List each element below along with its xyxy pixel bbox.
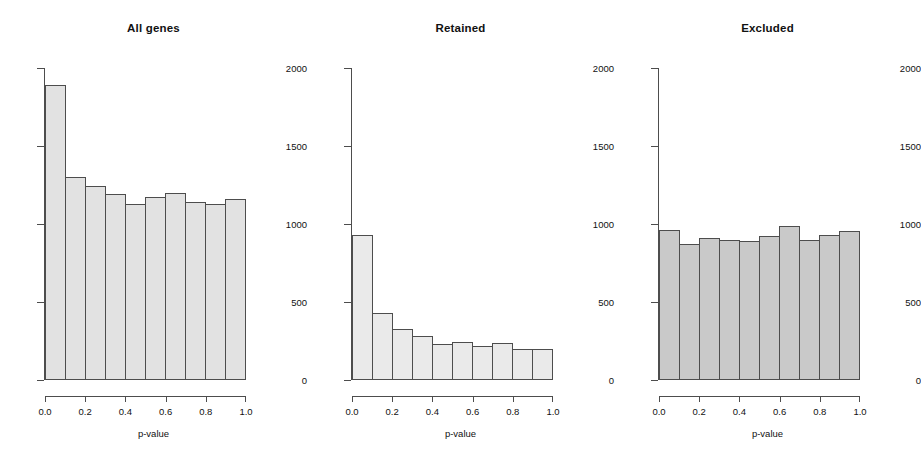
histogram-bar (145, 197, 166, 380)
histogram-bar (492, 343, 513, 380)
histogram-bar (659, 230, 680, 380)
panel-all-genes: All genes 0500100015002000 0.00.20.40.60… (0, 0, 307, 468)
histogram-bar (779, 226, 800, 380)
y-tick-label: 500 (887, 297, 921, 308)
x-tick-mark (166, 396, 167, 402)
histogram-bar (225, 199, 246, 380)
histogram-bar (372, 313, 393, 380)
histogram-bar (125, 204, 146, 380)
x-tick-mark (432, 396, 433, 402)
histogram-bar (819, 235, 840, 380)
x-tick-label: 1.0 (226, 406, 266, 417)
y-tick-label: 500 (273, 297, 307, 308)
y-tick-label: 0 (887, 375, 921, 386)
panel-title: Excluded (614, 22, 921, 34)
y-tick-mark (344, 380, 351, 381)
histogram-bar (412, 336, 433, 380)
plot-area (352, 68, 553, 380)
x-tick-label: 0.8 (186, 406, 226, 417)
x-tick-mark (820, 396, 821, 402)
y-tick-mark (37, 224, 44, 225)
y-tick-label: 1500 (273, 141, 307, 152)
x-axis-title: p-value (0, 428, 307, 439)
y-tick-mark (651, 380, 658, 381)
y-tick-mark (344, 146, 351, 147)
x-tick-mark (206, 396, 207, 402)
y-tick-label: 1000 (887, 219, 921, 230)
y-tick-label: 0 (273, 375, 307, 386)
x-tick-mark (659, 396, 660, 402)
y-tick-mark (651, 224, 658, 225)
y-tick-label: 0 (580, 375, 614, 386)
histogram-bar (839, 231, 860, 380)
x-axis-title: p-value (307, 428, 614, 439)
x-tick-label: 0.0 (25, 406, 65, 417)
histogram-bar (679, 244, 700, 381)
x-axis-line (45, 396, 246, 397)
histogram-bar (739, 241, 760, 380)
x-tick-label: 0.8 (800, 406, 840, 417)
x-tick-mark (739, 396, 740, 402)
x-tick-label: 0.6 (146, 406, 186, 417)
histogram-bar (392, 329, 413, 380)
y-axis-line (44, 68, 45, 380)
histogram-bar (352, 235, 373, 380)
y-tick-mark (37, 380, 44, 381)
x-tick-mark (245, 396, 246, 402)
y-tick-mark (651, 68, 658, 69)
bar-series (659, 68, 860, 380)
histogram-bar (85, 186, 106, 380)
bar-series (352, 68, 553, 380)
x-tick-label: 0.8 (493, 406, 533, 417)
x-tick-mark (859, 396, 860, 402)
x-tick-label: 0.2 (679, 406, 719, 417)
panel-excluded: Excluded 0500100015002000 0.00.20.40.60.… (614, 0, 921, 468)
x-tick-mark (552, 396, 553, 402)
bar-series (45, 68, 246, 380)
x-axis-line (352, 396, 553, 397)
histogram-bar (105, 194, 126, 380)
histogram-bar (185, 202, 206, 380)
x-tick-mark (45, 396, 46, 402)
x-tick-mark (473, 396, 474, 402)
panel-title: All genes (0, 22, 307, 34)
x-tick-label: 0.6 (453, 406, 493, 417)
x-tick-label: 0.0 (332, 406, 372, 417)
x-tick-mark (352, 396, 353, 402)
plot-area (45, 68, 246, 380)
y-tick-mark (651, 146, 658, 147)
y-tick-mark (344, 68, 351, 69)
histogram-bar (759, 236, 780, 380)
x-tick-mark (125, 396, 126, 402)
histogram-figure: All genes 0500100015002000 0.00.20.40.60… (0, 0, 921, 468)
histogram-bar (432, 344, 453, 380)
x-tick-mark (780, 396, 781, 402)
histogram-bar (719, 240, 740, 380)
y-tick-label: 1500 (580, 141, 614, 152)
y-tick-mark (37, 68, 44, 69)
x-axis-title: p-value (614, 428, 921, 439)
y-tick-mark (651, 302, 658, 303)
y-tick-label: 1000 (580, 219, 614, 230)
histogram-bar (205, 204, 226, 380)
histogram-bar (699, 238, 720, 380)
histogram-bar (65, 177, 86, 380)
y-tick-label: 2000 (273, 63, 307, 74)
histogram-bar (165, 193, 186, 380)
histogram-bar (532, 349, 553, 380)
histogram-bar (452, 342, 473, 380)
y-tick-label: 1000 (273, 219, 307, 230)
x-tick-mark (85, 396, 86, 402)
x-tick-mark (699, 396, 700, 402)
y-tick-label: 1500 (887, 141, 921, 152)
plot-area (659, 68, 860, 380)
histogram-bar (799, 240, 820, 380)
y-tick-label: 2000 (887, 63, 921, 74)
y-tick-mark (37, 146, 44, 147)
x-tick-label: 0.2 (372, 406, 412, 417)
x-tick-label: 0.4 (412, 406, 452, 417)
x-tick-label: 0.2 (65, 406, 105, 417)
x-tick-mark (392, 396, 393, 402)
y-axis-line (351, 68, 352, 380)
x-tick-label: 0.4 (719, 406, 759, 417)
